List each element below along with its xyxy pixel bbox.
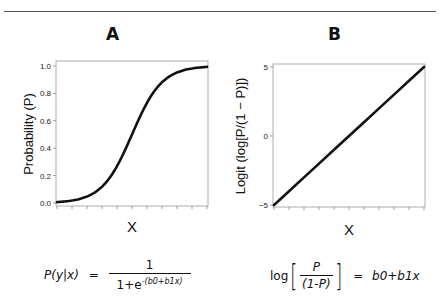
equation-b: log[ P (1-P) ] = b0+b1x: [270, 260, 420, 292]
chart-b-logit-line: [274, 67, 424, 205]
equation-b-numerator: P: [300, 260, 333, 276]
chart-a-y-axis: 0.00.20.40.60.81.0: [40, 62, 56, 208]
chart-a-x-label: X: [127, 218, 137, 235]
y-tick-label: 0.4: [40, 144, 52, 153]
equation-a-lhs: P(y|x): [44, 268, 79, 282]
y-tick-label: 1.0: [40, 62, 52, 71]
equation-b-log: log: [270, 269, 288, 283]
equation-a-numerator: 1: [109, 258, 191, 274]
equation-a: P(y|x) = 1 1+e-(b0+b1x): [44, 258, 191, 293]
equation-a-exponent: -(b0+b1x): [142, 277, 183, 286]
y-tick-label: 0.2: [40, 172, 52, 181]
equation-a-fraction: 1 1+e-(b0+b1x): [109, 258, 191, 293]
equation-b-equals: =: [353, 269, 363, 283]
equation-b-fraction: P (1-P): [300, 260, 333, 292]
right-bracket-icon: ]: [335, 261, 342, 291]
equation-a-denominator: 1+e-(b0+b1x): [109, 274, 191, 293]
left-bracket-icon: [: [291, 261, 298, 291]
equation-b-denominator: (1-P): [300, 276, 333, 292]
chart-a: 0.00.20.40.60.81.0 Probability (P) X: [21, 61, 208, 235]
chart-b-y-label: Logit (log[P/(1 − P)]): [233, 78, 248, 195]
chart-a-logistic-curve: [57, 67, 207, 202]
equation-a-denominator-base: 1+e: [117, 278, 142, 292]
y-tick-label: 0: [264, 132, 269, 141]
y-tick-label: 0.0: [40, 199, 52, 208]
equation-b-rhs: b0+b1x: [372, 269, 420, 283]
chart-a-x-axis: [57, 206, 207, 209]
y-tick-label: −5: [259, 201, 269, 210]
chart-a-y-label: Probability (P): [21, 93, 36, 175]
chart-b-x-axis: [274, 207, 424, 210]
y-tick-label: 0.6: [40, 117, 52, 126]
chart-b-x-label: X: [344, 221, 354, 238]
y-tick-label: 5: [264, 63, 269, 72]
y-tick-label: 0.8: [40, 89, 52, 98]
chart-b-y-axis: −505: [259, 63, 273, 210]
equation-a-equals: =: [89, 268, 99, 282]
chart-b: −505 Logit (log[P/(1 − P)]) X: [233, 63, 425, 238]
